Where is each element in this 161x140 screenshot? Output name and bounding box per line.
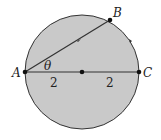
label-a: A [11,66,21,80]
label-b: B [112,6,122,20]
point-b [108,18,113,23]
label-c: C [143,66,152,80]
point-center [80,70,85,75]
point-a [23,70,28,75]
circle-diagram: A B C θ 2 2 [0,0,161,140]
angle-theta-label: θ [44,59,52,73]
segment-label-left: 2 [50,76,58,90]
segment-label-right: 2 [106,76,114,90]
point-c [137,70,142,75]
